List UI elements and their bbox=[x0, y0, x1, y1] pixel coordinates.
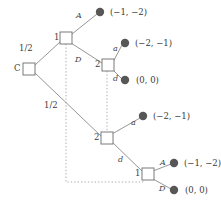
action-label-p1bottom-A: A bbox=[160, 159, 166, 167]
node-player1-top[interactable] bbox=[60, 32, 72, 44]
payoff-label-3: (0, 0) bbox=[136, 76, 159, 85]
node-label-player2-bottom: 2 bbox=[94, 133, 99, 142]
terminal-node-3[interactable] bbox=[121, 76, 129, 84]
node-label-chance: C bbox=[14, 64, 21, 73]
game-tree-figure: C 1 2 2 1 1/2 1/2 A D a d a d A D (−1, −… bbox=[0, 0, 221, 203]
node-label-player2-top: 2 bbox=[95, 60, 100, 69]
action-label-p2top-a: a bbox=[113, 45, 118, 53]
node-label-player1-top: 1 bbox=[54, 33, 59, 42]
node-player1-bottom[interactable] bbox=[142, 168, 154, 180]
terminal-node-1[interactable] bbox=[96, 8, 104, 16]
action-label-p2top-d: d bbox=[113, 75, 118, 83]
probability-label-lower: 1/2 bbox=[44, 101, 58, 110]
node-label-player1-bottom: 1 bbox=[135, 169, 140, 178]
action-label-p2bottom-d: d bbox=[118, 156, 123, 164]
terminal-node-2[interactable] bbox=[121, 39, 129, 47]
payoff-label-6: (0, 0) bbox=[185, 186, 208, 195]
terminal-node-4[interactable] bbox=[139, 112, 147, 120]
edge-chance-to-p1top bbox=[35, 42, 60, 65]
action-label-p1top-A: A bbox=[76, 12, 82, 20]
action-label-p2bottom-a: a bbox=[131, 119, 136, 127]
node-chance-C[interactable] bbox=[23, 63, 35, 75]
payoff-label-1: (−1, −2) bbox=[110, 8, 147, 17]
node-player2-top[interactable] bbox=[102, 59, 114, 71]
payoff-label-5: (−1, −2) bbox=[184, 159, 221, 168]
action-label-p1top-D: D bbox=[75, 56, 81, 64]
payoff-label-4: (−2, −1) bbox=[153, 112, 190, 121]
action-label-p1bottom-D: D bbox=[159, 185, 165, 193]
tree-canvas bbox=[0, 0, 221, 203]
payoff-label-2: (−2, −1) bbox=[135, 39, 172, 48]
node-player2-bottom[interactable] bbox=[101, 132, 113, 144]
probability-label-upper: 1/2 bbox=[19, 44, 33, 53]
terminal-node-5[interactable] bbox=[170, 159, 178, 167]
terminal-node-6[interactable] bbox=[170, 186, 178, 194]
